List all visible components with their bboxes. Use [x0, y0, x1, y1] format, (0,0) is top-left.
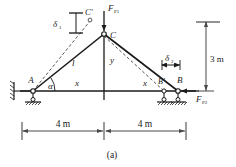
label-point-c: C [110, 30, 117, 40]
label-delta2-symbol: δ [165, 53, 170, 63]
support-b [171, 93, 187, 105]
support-a-pin [31, 98, 35, 102]
label-coord-x-right: x [142, 78, 147, 88]
label-delta2: δ 2 [165, 53, 174, 64]
support-b-pin [176, 98, 180, 102]
label-delta2-subscript: 2 [171, 59, 174, 64]
support-b-displaced [157, 93, 173, 105]
figure-caption: (a) [107, 150, 118, 161]
truss-figure: A C C' B B' l y x x α δ 1 δ 2 F P1 F P2 … [0, 0, 236, 167]
support-bd-pin [162, 98, 166, 102]
joint-b [176, 89, 181, 94]
member-ac [33, 34, 104, 91]
label-point-c-displaced: C' [85, 7, 93, 17]
label-fp2-symbol: F [195, 94, 202, 104]
dimension-spans [22, 122, 186, 140]
joint-b-displaced [162, 89, 166, 93]
label-delta1-subscript: 1 [59, 25, 62, 30]
label-point-b-displaced: B' [158, 77, 165, 86]
joint-c-displaced [88, 18, 92, 22]
label-point-b: B [177, 75, 183, 85]
label-dimension-span-left: 4 m [56, 119, 71, 129]
label-coord-y: y [109, 55, 114, 65]
joint-a [31, 89, 36, 94]
label-fp1-symbol: F [107, 3, 114, 13]
label-force-fp1: F P1 [107, 3, 120, 14]
dimension-delta1 [69, 13, 83, 33]
support-a [10, 81, 41, 105]
label-delta1-symbol: δ [53, 19, 58, 29]
truss-members [20, 34, 196, 100]
label-dimension-span-right: 4 m [138, 119, 153, 129]
label-member-length: l [72, 58, 75, 68]
label-fp2-subscript: P2 [202, 100, 208, 105]
label-point-a: A [27, 75, 34, 85]
joint-c [102, 32, 107, 37]
label-dimension-height: 3 m [210, 54, 224, 64]
truss-diagram-svg: A C C' B B' l y x x α δ 1 δ 2 F P1 F P2 … [0, 0, 236, 167]
deformed-member-ac [33, 21, 90, 91]
label-force-fp2: F P2 [195, 94, 208, 105]
label-angle-alpha: α [48, 81, 53, 91]
label-coord-x-left: x [74, 78, 79, 88]
label-delta1: δ 1 [53, 19, 62, 30]
label-fp1-subscript: P1 [114, 9, 120, 14]
